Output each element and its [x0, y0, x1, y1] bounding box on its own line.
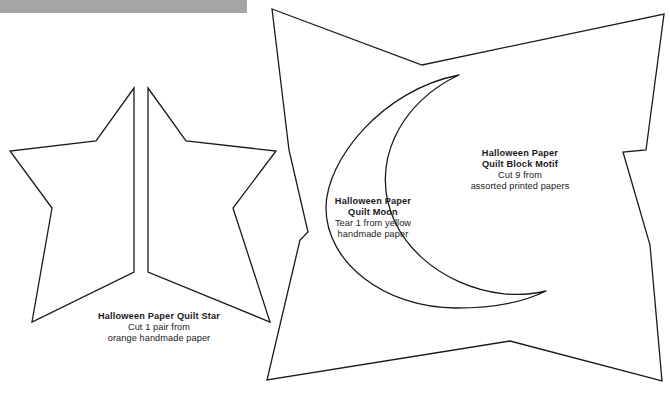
quilt-moon-label: Halloween Paper Quilt Moon Tear 1 from y…: [318, 196, 428, 239]
quilt-block-instruction-line-1: Cut 9 from: [450, 170, 590, 181]
quilt-moon-instruction-line-2: handmade paper: [318, 229, 428, 240]
quilt-block-title-line-1: Halloween Paper: [450, 148, 590, 159]
quilt-star-right-half: [148, 88, 276, 322]
quilt-star-instruction-line-2: orange handmade paper: [44, 333, 274, 344]
quilt-block-title-line-2: Quilt Block Motif: [450, 159, 590, 170]
quilt-block-label: Halloween Paper Quilt Block Motif Cut 9 …: [450, 148, 590, 191]
template-sheet: Halloween Paper Quilt Star Cut 1 pair fr…: [0, 0, 670, 394]
quilt-block-instruction-line-2: assorted printed papers: [450, 181, 590, 192]
quilt-moon-title-line-1: Halloween Paper: [318, 196, 428, 207]
quilt-star-title: Halloween Paper Quilt Star: [44, 311, 274, 322]
quilt-moon-instruction-line-1: Tear 1 from yellow: [318, 218, 428, 229]
quilt-star-left-half: [10, 88, 134, 322]
quilt-star-instruction-line-1: Cut 1 pair from: [44, 322, 274, 333]
quilt-moon-title-line-2: Quilt Moon: [318, 207, 428, 218]
quilt-star-label: Halloween Paper Quilt Star Cut 1 pair fr…: [44, 311, 274, 344]
quilt-block-outline: [267, 9, 664, 381]
